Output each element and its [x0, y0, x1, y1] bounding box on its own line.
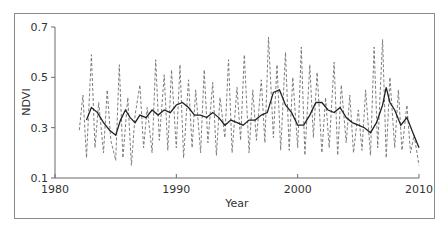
- y-tick-label: 0.5: [31, 71, 49, 84]
- y-tick-label: 0.7: [31, 21, 49, 34]
- x-tick-label: 1990: [162, 183, 190, 196]
- y-tick-label: 0.3: [31, 122, 49, 135]
- plot-area: [79, 37, 419, 165]
- y-axis-title: NDVI: [20, 88, 33, 115]
- ndvi-time-series-chart: 0.10.30.50.71980199020002010 Year NDVI: [0, 0, 447, 229]
- raw-ndvi-series: [79, 37, 419, 165]
- x-tick-label: 2010: [405, 183, 433, 196]
- x-axis-title: Year: [224, 197, 249, 210]
- x-tick-label: 2000: [284, 183, 312, 196]
- x-tick-label: 1980: [41, 183, 69, 196]
